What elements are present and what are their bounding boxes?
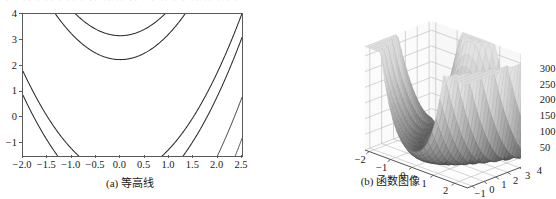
contour-y-tick-mark: [19, 142, 22, 143]
contour-x-axis-ticks: −2.0−1.5−1.0−0.50.00.51.01.52.02.5: [22, 158, 243, 174]
contour-x-tick-label: 1.5: [186, 159, 199, 170]
contour-y-tick-mark: [19, 91, 22, 92]
contour-y-tick-label: 3: [12, 33, 17, 44]
surface-z-axis-ticks: 30025020015010050: [496, 0, 524, 194]
surface-z-tick-label: 200: [540, 94, 556, 105]
surface-z-tick-label: 250: [540, 78, 556, 89]
contour-x-tick-mark: [22, 155, 23, 158]
contour-x-tick-label: 0.5: [137, 159, 150, 170]
contour-y-tick-label: 0: [12, 111, 17, 122]
surface-z-tick-label: 150: [540, 110, 556, 121]
contour-plot-area: [22, 13, 243, 157]
surface-z-tick-label: 300: [540, 63, 556, 74]
contour-x-tick-mark: [192, 155, 193, 158]
surface-x-tick-label: −2: [355, 153, 366, 164]
surface-y-tick-label: 1: [501, 179, 506, 190]
contour-x-tick-mark: [241, 155, 242, 158]
contour-x-tick-label: 2.0: [210, 159, 223, 170]
surface-x-tick-label: 1: [422, 177, 427, 188]
contour-y-tick-label: 1: [12, 85, 17, 96]
surface-y-tick-label: 4: [537, 165, 542, 176]
surface-y-tick-label: −1: [475, 188, 486, 199]
panel-b-caption: (b) 函数图像: [260, 172, 521, 188]
contour-y-tick-label: 4: [12, 8, 17, 19]
surface-x-tick-label: 0: [400, 169, 405, 180]
contour-x-tick-label: −0.5: [85, 159, 104, 170]
contour-y-axis-ticks: 43210−1: [0, 13, 20, 157]
contour-lines: [23, 14, 242, 156]
contour-frame: [22, 13, 243, 157]
surface-y-tick-label: 0: [489, 183, 494, 194]
contour-x-tick-mark: [95, 155, 96, 158]
contour-y-tick-mark: [19, 116, 22, 117]
contour-x-tick-mark: [119, 155, 120, 158]
surface-z-tick-label: 50: [540, 141, 551, 152]
surface-x-tick-label: −1: [376, 161, 387, 172]
contour-y-tick-label: 2: [12, 59, 17, 70]
contour-y-tick-mark: [19, 65, 22, 66]
surface-y-tick-label: 3: [525, 169, 530, 180]
contour-x-tick-mark: [46, 155, 47, 158]
contour-x-tick-mark: [217, 155, 218, 158]
panel-surface: 30025020015010050 (b) 函数图像 −2−1012−10123…: [260, 0, 521, 194]
contour-x-tick-label: 0.0: [113, 159, 126, 170]
contour-y-tick-label: −1: [6, 137, 17, 148]
contour-y-tick-mark: [19, 13, 22, 14]
contour-x-tick-label: −1.0: [61, 159, 80, 170]
surface-plot-area: [260, 0, 521, 194]
contour-x-tick-label: −1.5: [37, 159, 56, 170]
surface-x-tick-label: 2: [443, 185, 448, 196]
surface-z-tick-label: 100: [540, 125, 556, 136]
contour-x-tick-mark: [144, 155, 145, 158]
contour-y-tick-mark: [19, 39, 22, 40]
contour-x-tick-label: 2.5: [234, 159, 247, 170]
contour-x-tick-label: −2.0: [12, 159, 31, 170]
contour-x-tick-mark: [168, 155, 169, 158]
panel-contour: 43210−1 −2.0−1.5−1.0−0.50.00.51.01.52.02…: [0, 0, 260, 194]
contour-x-tick-label: 1.0: [161, 159, 174, 170]
panel-a-caption: (a) 等高线: [0, 174, 260, 190]
surface-y-tick-label: 2: [513, 174, 518, 185]
contour-x-tick-mark: [71, 155, 72, 158]
surface-3d: [260, 0, 521, 194]
